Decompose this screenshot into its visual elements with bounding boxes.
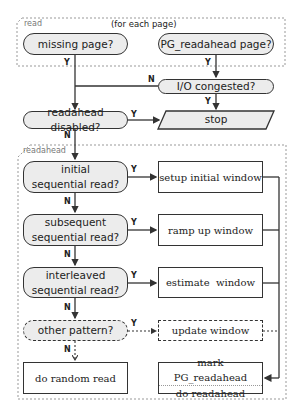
node-text-line2: do readahead bbox=[176, 386, 245, 401]
node-text-line2: sequential read? bbox=[32, 230, 119, 245]
edge-label-congested-no: N bbox=[148, 75, 155, 84]
process-estimate-window: estimate window bbox=[158, 267, 263, 298]
node-text-line2: sequential read? bbox=[32, 177, 119, 192]
node-text: setup initial window bbox=[159, 170, 262, 185]
node-text: missing page? bbox=[38, 37, 113, 52]
edge-label-interleaved-yes: Y bbox=[131, 271, 137, 280]
edge-label-subsequent-yes: Y bbox=[131, 218, 137, 227]
group-note-for-each-page: (for each page) bbox=[111, 19, 176, 29]
terminal-stop: stop bbox=[158, 113, 274, 125]
edge-label-disabled-yes: Y bbox=[131, 110, 137, 119]
readahead-flowchart: read (for each page) readahead missing p… bbox=[0, 0, 302, 412]
node-text: update window bbox=[172, 323, 250, 338]
edge-label-subsequent-no: N bbox=[64, 250, 71, 259]
edge-label-initial-no: N bbox=[64, 197, 71, 206]
node-text: readahead disabled? bbox=[24, 105, 127, 135]
edge-label-interleaved-no: N bbox=[64, 303, 71, 312]
group-label-readahead: readahead bbox=[23, 146, 66, 155]
edge-label-missing-yes: Y bbox=[64, 58, 70, 67]
decision-other-pattern: other pattern? bbox=[23, 320, 128, 341]
node-text-line1: initial bbox=[61, 162, 90, 177]
process-setup-initial-window: setup initial window bbox=[158, 161, 263, 193]
group-label-read: read bbox=[24, 19, 42, 28]
node-text: other pattern? bbox=[38, 323, 113, 338]
decision-initial-sequential-read: initial sequential read? bbox=[23, 161, 128, 193]
decision-readahead-disabled: readahead disabled? bbox=[23, 111, 128, 129]
node-text: estimate window bbox=[166, 275, 255, 290]
decision-missing-page: missing page? bbox=[23, 33, 128, 55]
node-text: I/O congested? bbox=[177, 79, 256, 94]
edge-label-other-no: N bbox=[64, 345, 71, 354]
process-ramp-up-window: ramp up window bbox=[158, 214, 263, 246]
edge-label-disabled-no: N bbox=[64, 131, 71, 140]
node-text: PG_readahead page? bbox=[160, 37, 271, 52]
connector-lines bbox=[0, 0, 302, 412]
decision-interleaved-sequential-read: interleaved sequential read? bbox=[23, 267, 128, 298]
edge-label-other-yes: Y bbox=[131, 319, 137, 328]
node-text-line2: sequential read? bbox=[32, 283, 119, 298]
edge-label-congested-yes: Y bbox=[205, 97, 211, 106]
process-mark-and-readahead: mark PG_readahead do readahead bbox=[158, 362, 263, 394]
node-text: do random read bbox=[35, 371, 116, 386]
node-text-line1: mark PG_readahead bbox=[159, 355, 262, 386]
node-text-line1: subsequent bbox=[45, 215, 106, 230]
decision-subsequent-sequential-read: subsequent sequential read? bbox=[23, 214, 128, 246]
edge-label-initial-yes: Y bbox=[131, 165, 137, 174]
process-do-random-read: do random read bbox=[23, 362, 128, 394]
decision-io-congested: I/O congested? bbox=[158, 79, 274, 94]
node-text: ramp up window bbox=[168, 223, 253, 238]
process-update-window: update window bbox=[158, 320, 263, 341]
decision-pg-readahead-page: PG_readahead page? bbox=[158, 33, 274, 55]
edge-label-pg-yes: Y bbox=[205, 58, 211, 67]
node-text-line1: interleaved bbox=[46, 268, 106, 283]
